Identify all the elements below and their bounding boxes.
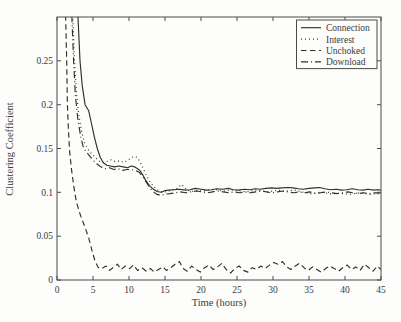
x-tick-label: 15: [160, 285, 170, 295]
legend: ConnectionInterestUnchokedDownload: [297, 20, 378, 69]
y-tick-label: 0.05: [36, 231, 53, 241]
legend-label-unchoked: Unchoked: [326, 46, 365, 56]
x-tick-label: 10: [124, 285, 134, 295]
y-tick-label: 0: [48, 275, 53, 285]
x-tick-label: 30: [268, 285, 278, 295]
figure: 05101520253035404500.050.10.150.20.25Con…: [0, 0, 401, 322]
x-tick-label: 20: [196, 285, 206, 295]
x-tick-label: 35: [304, 285, 314, 295]
x-tick-label: 0: [55, 285, 60, 295]
legend-label-download: Download: [326, 57, 366, 67]
x-axis-label: Time (hours): [192, 297, 247, 309]
y-tick-label: 0.25: [36, 56, 53, 66]
y-tick-label: 0.2: [41, 100, 53, 110]
legend-label-connection: Connection: [326, 23, 370, 33]
y-tick-label: 0.1: [41, 188, 53, 198]
x-tick-label: 5: [91, 285, 96, 295]
x-tick-label: 25: [232, 285, 242, 295]
x-tick-label: 45: [376, 285, 386, 295]
clustering-chart: 05101520253035404500.050.10.150.20.25Con…: [0, 0, 401, 322]
y-axis-label: Clustering Coefficient: [4, 102, 15, 195]
x-tick-label: 40: [340, 285, 350, 295]
plot-generated: 05101520253035404500.050.10.150.20.25Con…: [36, 15, 386, 295]
legend-label-interest: Interest: [326, 35, 355, 45]
y-tick-label: 0.15: [36, 144, 53, 154]
